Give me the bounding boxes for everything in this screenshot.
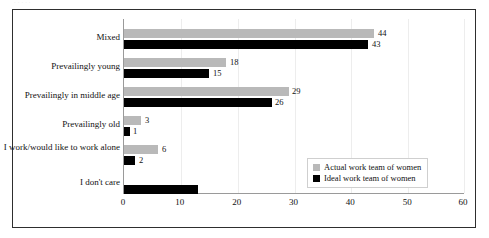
bar-value-actual-prevailingly-middle-age: 29 xyxy=(292,87,301,96)
bar-actual-prevailingly-old xyxy=(124,116,141,125)
bar-value-ideal-prevailingly-young: 15 xyxy=(213,69,222,78)
bar-ideal-i-dont-care xyxy=(124,185,198,194)
bar-ideal-prevailingly-old xyxy=(124,127,130,136)
bar-value-actual-prevailingly-young: 18 xyxy=(230,58,239,67)
bar-actual-mixed xyxy=(124,29,374,38)
x-axis-tick-40: 40 xyxy=(346,197,355,207)
bar-ideal-mixed xyxy=(124,40,368,49)
y-axis-label-prevailingly-young: Prevailingly young xyxy=(0,61,120,72)
y-axis-label-work-alone: I work/would like to work alone xyxy=(0,142,120,153)
gridline-60 xyxy=(464,19,465,193)
bar-actual-prevailingly-young xyxy=(124,58,226,67)
cut-off-caption-remnant: · · · · · xyxy=(14,0,474,6)
y-axis-label-prevailingly-old: Prevailingly old xyxy=(0,119,120,130)
x-axis-tick-10: 10 xyxy=(175,197,184,207)
legend-label-ideal: Ideal work team of women xyxy=(324,173,416,184)
chart-frame: Mixed Prevailingly young Prevailingly in… xyxy=(12,9,476,228)
bar-value-ideal-mixed: 43 xyxy=(372,40,381,49)
bar-actual-work-alone xyxy=(124,145,158,154)
x-axis-tick-30: 30 xyxy=(289,197,298,207)
bar-value-actual-prevailingly-old: 3 xyxy=(145,116,149,125)
bar-ideal-work-alone xyxy=(124,156,135,165)
legend-swatch-ideal-icon xyxy=(313,175,320,182)
x-axis-tick-0: 0 xyxy=(121,197,126,207)
plot-wrapper: Mixed Prevailingly young Prevailingly in… xyxy=(13,10,475,227)
bar-value-ideal-work-alone: 2 xyxy=(139,156,143,165)
legend-label-actual: Actual work team of women xyxy=(324,162,421,173)
x-axis-tick-50: 50 xyxy=(403,197,412,207)
bar-actual-prevailingly-middle-age xyxy=(124,87,289,96)
legend-item-actual: Actual work team of women xyxy=(313,162,421,173)
y-axis-label-prevailingly-middle-age: Prevailingly in middle age xyxy=(0,90,120,101)
y-axis-label-i-dont-care: I don't care xyxy=(0,177,120,188)
bar-value-actual-mixed: 44 xyxy=(378,29,387,38)
x-axis-tick-20: 20 xyxy=(232,197,241,207)
bar-ideal-prevailingly-middle-age xyxy=(124,98,272,107)
y-axis-label-mixed: Mixed xyxy=(0,32,120,43)
legend: Actual work team of women Ideal work tea… xyxy=(307,158,428,188)
x-axis-tick-60: 60 xyxy=(459,197,468,207)
bar-value-ideal-prevailingly-middle-age: 26 xyxy=(275,98,284,107)
bar-value-actual-work-alone: 6 xyxy=(162,145,166,154)
chart-screenshot: · · · · · Mixed Prevailingly young Preva… xyxy=(0,0,489,238)
legend-item-ideal: Ideal work team of women xyxy=(313,173,421,184)
legend-swatch-actual-icon xyxy=(313,164,320,171)
bar-value-ideal-prevailingly-old: 1 xyxy=(133,127,137,136)
bar-ideal-prevailingly-young xyxy=(124,69,209,78)
